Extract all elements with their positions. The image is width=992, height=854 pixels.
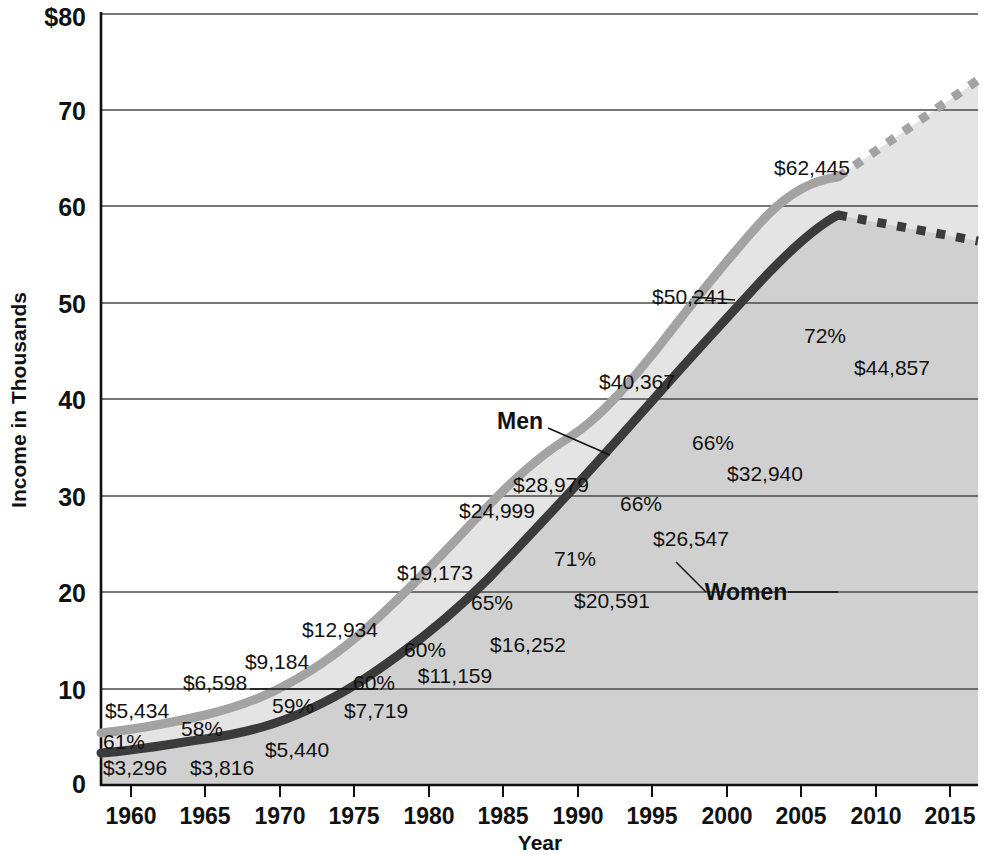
women-label-1965: $3,816 (190, 756, 254, 779)
men-label-1960: $5,434 (105, 699, 170, 722)
women-label-1975: $7,719 (344, 699, 408, 722)
men-label-1980: $19,173 (397, 561, 473, 584)
y-axis-title: Income in Thousands (7, 292, 30, 508)
ytick-label-50: 50 (58, 290, 86, 318)
women-label-1995: $26,547 (653, 527, 729, 550)
ratio-label-1980: 60% (404, 638, 446, 661)
xtick-label-2015: 2015 (924, 803, 975, 829)
men-label-1975: $12,934 (302, 618, 378, 641)
women-label-2009: $44,857 (854, 356, 930, 379)
women-label-1970: $5,440 (265, 738, 329, 761)
ytick-label-0: 0 (72, 770, 86, 798)
ratio-label-2000: 66% (692, 431, 734, 454)
ytick-label-20: 20 (58, 579, 86, 607)
ratio-label-1965: 58% (181, 717, 223, 740)
xtick-label-1975: 1975 (328, 803, 379, 829)
ratio-label-1960: 61% (103, 730, 145, 753)
xtick-label-1985: 1985 (477, 803, 528, 829)
men-label-1985: $24,999 (459, 499, 535, 522)
xtick-label-1960: 1960 (105, 803, 156, 829)
ratio-label-1990: 71% (554, 547, 596, 570)
men-label-1990: $28,979 (513, 473, 589, 496)
women-label-2000: $32,940 (727, 462, 803, 485)
xtick-label-1970: 1970 (254, 803, 305, 829)
ratio-label-2009: 72% (804, 324, 846, 347)
xtick-label-1990: 1990 (552, 803, 603, 829)
men-label-1965: $6,598 (183, 671, 247, 694)
x-axis-title: Year (518, 831, 562, 854)
xtick-label-1995: 1995 (626, 803, 677, 829)
ratio-label-1985: 65% (471, 591, 513, 614)
xtick-label-2005: 2005 (775, 803, 826, 829)
ytick-label-10: 10 (58, 676, 86, 704)
ytick-label-80: $80 (44, 3, 86, 31)
women-label-1980: $11,159 (418, 664, 492, 687)
ytick-label-60: 60 (58, 193, 86, 221)
men-label-1970: $9,184 (245, 650, 310, 673)
ytick-label-40: 40 (58, 386, 86, 414)
x-axis-ticks: 1960 1965 1970 1975 1980 1985 1990 1995 … (105, 803, 975, 829)
xtick-label-2000: 2000 (701, 803, 752, 829)
men-label-2009: $62,445 (774, 156, 850, 179)
women-label-1985: $16,252 (490, 633, 566, 656)
women-label-1990: $20,591 (574, 589, 650, 612)
ratio-label-1995: 66% (620, 492, 662, 515)
ratio-label-1970: 59% (272, 694, 314, 717)
ytick-label-30: 30 (58, 483, 86, 511)
men-label-2000: $50,241 (652, 285, 728, 308)
men-label-1995: $40,367 (599, 370, 675, 393)
ratio-label-1975: 60% (353, 671, 395, 694)
xtick-label-1965: 1965 (179, 803, 230, 829)
y-axis-ticks: $80 70 60 50 40 30 20 10 0 (44, 3, 86, 798)
income-by-gender-chart: $80 70 60 50 40 30 20 10 0 1960 1965 197… (0, 0, 992, 854)
xtick-label-2010: 2010 (850, 803, 901, 829)
series-annotation-women: Women (705, 579, 788, 605)
ytick-label-70: 70 (58, 97, 86, 125)
xtick-label-1980: 1980 (403, 803, 454, 829)
series-annotation-men: Men (497, 408, 543, 434)
area-projection-below (838, 215, 978, 785)
chart-canvas: $80 70 60 50 40 30 20 10 0 1960 1965 197… (0, 0, 992, 854)
women-label-1960: $3,296 (103, 756, 167, 779)
